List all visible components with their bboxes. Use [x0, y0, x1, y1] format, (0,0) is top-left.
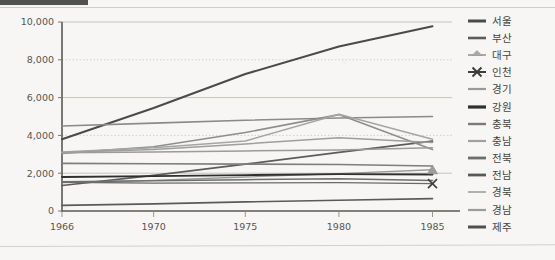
y-tick-label: 0 [48, 205, 54, 216]
y-tick-label: 8,000 [27, 54, 54, 65]
chart-legend: 서울부산대구인천경기강원충북충남전북전남경북경남제주 [467, 12, 549, 240]
legend-swatch-전남-icon [467, 168, 487, 182]
legend-label: 강원 [492, 100, 512, 114]
legend-item-경남[interactable]: 경남 [467, 201, 549, 218]
legend-label: 인천 [492, 65, 512, 79]
legend-label: 서울 [492, 14, 512, 28]
series-line-전북 [62, 163, 433, 166]
x-tick-label: 1975 [233, 221, 257, 232]
legend-item-강원[interactable]: 강원 [467, 98, 549, 115]
legend-item-제주[interactable]: 제주 [467, 218, 549, 235]
series-line-제주 [62, 199, 433, 206]
legend-item-대구[interactable]: 대구 [467, 46, 549, 63]
legend-item-경기[interactable]: 경기 [467, 81, 549, 98]
legend-item-전남[interactable]: 전남 [467, 167, 549, 184]
legend-label: 충남 [492, 134, 512, 148]
x-tick-label: 1985 [420, 221, 444, 232]
legend-swatch-강원-icon [467, 100, 487, 114]
legend-label: 부산 [492, 31, 512, 45]
legend-swatch-서울-icon [467, 14, 487, 28]
legend-item-충남[interactable]: 충남 [467, 132, 549, 149]
legend-swatch-전북-icon [467, 151, 487, 165]
legend-swatch-충남-icon [467, 134, 487, 148]
legend-label: 경기 [492, 82, 512, 96]
x-tick-label: 1966 [50, 221, 74, 232]
legend-label: 제주 [492, 220, 512, 234]
legend-swatch-경기-icon [467, 82, 487, 96]
y-tick-label: 4,000 [27, 130, 54, 141]
x-tick-label: 1970 [142, 221, 166, 232]
x-tick-label: 1980 [327, 221, 351, 232]
y-tick-label: 6,000 [27, 92, 54, 103]
legend-swatch-인천-icon [467, 65, 487, 79]
legend-swatch-제주-icon [467, 220, 487, 234]
chart-plot-area: 02,0004,0006,0008,00010,0001966197019751… [0, 8, 470, 248]
legend-label: 전북 [492, 151, 512, 165]
legend-label: 대구 [492, 48, 512, 62]
series-line-인천 [62, 182, 433, 183]
legend-label: 경남 [492, 203, 512, 217]
y-tick-label: 10,000 [21, 16, 54, 27]
legend-item-부산[interactable]: 부산 [467, 29, 549, 46]
legend-item-전북[interactable]: 전북 [467, 150, 549, 167]
legend-swatch-대구-icon [467, 48, 487, 62]
line-chart: 02,0004,0006,0008,00010,0001966197019751… [0, 8, 470, 248]
legend-swatch-부산-icon [467, 31, 487, 45]
legend-item-인천[interactable]: 인천 [467, 64, 549, 81]
scan-artifact-bar [0, 0, 88, 5]
legend-swatch-경남-icon [467, 203, 487, 217]
legend-swatch-경북-icon [467, 185, 487, 199]
legend-label: 충북 [492, 117, 512, 131]
legend-item-경북[interactable]: 경북 [467, 184, 549, 201]
legend-label: 경북 [492, 185, 512, 199]
legend-swatch-충북-icon [467, 117, 487, 131]
legend-item-서울[interactable]: 서울 [467, 12, 549, 29]
y-tick-label: 2,000 [27, 168, 54, 179]
legend-item-충북[interactable]: 충북 [467, 115, 549, 132]
legend-label: 전남 [492, 168, 512, 182]
series-line-서울 [62, 26, 433, 139]
